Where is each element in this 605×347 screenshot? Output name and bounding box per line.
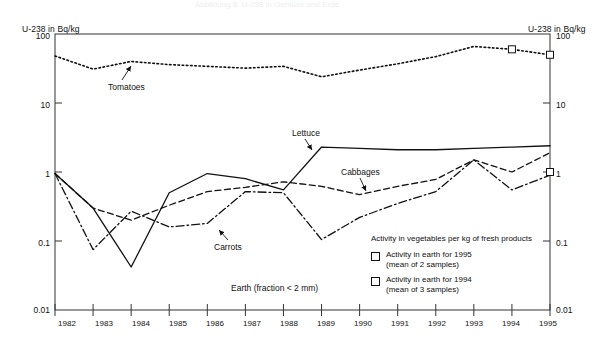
arrow-cabbages bbox=[360, 178, 366, 191]
series-line-cabbages bbox=[55, 153, 550, 220]
axis-ticks bbox=[55, 103, 550, 316]
earth-sample-markers bbox=[508, 46, 553, 176]
data-series bbox=[55, 46, 550, 267]
series-line-lettuce bbox=[55, 146, 550, 267]
earth-marker-1995-0 bbox=[547, 51, 554, 58]
arrow-carrots bbox=[219, 230, 228, 240]
earth-marker-1994-0 bbox=[508, 46, 515, 53]
arrow-lettuce bbox=[305, 139, 312, 150]
chart-root: Abbildung 8: U-238 in Gemüse und Erde U-… bbox=[0, 0, 605, 347]
plot-canvas bbox=[0, 0, 605, 347]
earth-marker-1995-1 bbox=[547, 169, 554, 176]
arrow-tomatoes bbox=[122, 66, 131, 80]
series-line-carrots bbox=[55, 160, 550, 250]
series-line-earth-fraction-2-mm bbox=[55, 46, 550, 76]
plot-frame bbox=[55, 34, 550, 310]
